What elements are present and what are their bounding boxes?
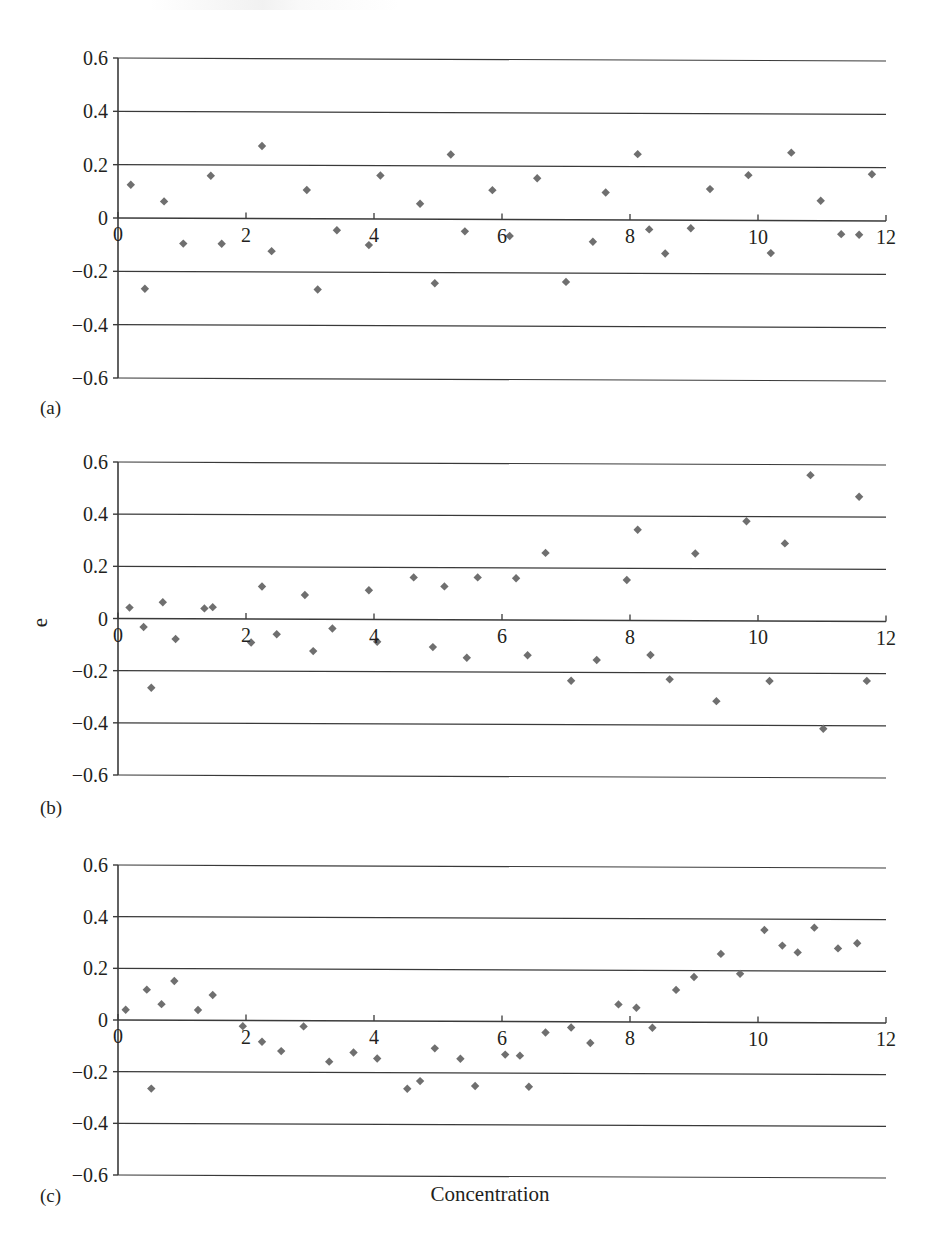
y-tick-label: 0 bbox=[98, 1010, 108, 1030]
x-tick-label: 8 bbox=[625, 1028, 635, 1048]
x-tick-label: 0 bbox=[113, 625, 123, 645]
x-tick-label: 0 bbox=[113, 224, 123, 244]
y-tick-label: 0.4 bbox=[83, 504, 108, 524]
x-axis-labels-a: 024681012 bbox=[118, 58, 886, 378]
y-tick-label: 0.6 bbox=[83, 855, 108, 875]
x-axis-labels-b: 024681012 bbox=[118, 462, 886, 775]
y-tick-label: 0.2 bbox=[83, 556, 108, 576]
y-axis-title: e bbox=[30, 618, 51, 627]
x-tick-label: 10 bbox=[748, 627, 768, 647]
x-tick-label: 4 bbox=[369, 626, 379, 646]
y-axis-labels-a: −0.6−0.4−0.200.20.40.6 bbox=[0, 58, 108, 378]
x-tick-label: 2 bbox=[241, 1027, 251, 1047]
x-tick-label: 8 bbox=[625, 226, 635, 246]
y-tick-label: −0.6 bbox=[72, 368, 108, 388]
y-tick-label: −0.4 bbox=[72, 1113, 108, 1133]
y-tick-label: −0.4 bbox=[72, 713, 108, 733]
y-tick-label: 0 bbox=[98, 609, 108, 629]
panel-c: −0.6−0.4−0.200.20.40.6 024681012 (c) Con… bbox=[0, 800, 932, 1258]
x-tick-label: 10 bbox=[748, 1029, 768, 1049]
x-axis-labels-c: 024681012 bbox=[118, 865, 886, 1175]
y-tick-label: 0.2 bbox=[83, 155, 108, 175]
y-tick-label: −0.4 bbox=[72, 315, 108, 335]
y-tick-label: −0.2 bbox=[72, 1062, 108, 1082]
x-tick-label: 2 bbox=[241, 225, 251, 245]
y-axis-labels-b: −0.6−0.4−0.200.20.40.6 bbox=[0, 462, 108, 775]
y-tick-label: −0.6 bbox=[72, 1165, 108, 1185]
y-tick-label: 0.4 bbox=[83, 907, 108, 927]
y-axis-labels-c: −0.6−0.4−0.200.20.40.6 bbox=[0, 865, 108, 1175]
x-tick-label: 12 bbox=[876, 227, 896, 247]
x-tick-label: 0 bbox=[113, 1026, 123, 1046]
x-tick-label: 10 bbox=[748, 227, 768, 247]
x-tick-label: 4 bbox=[369, 1027, 379, 1047]
figure-page: −0.6−0.4−0.200.20.40.6 024681012 (a) −0.… bbox=[0, 0, 932, 1258]
x-tick-label: 12 bbox=[876, 1029, 896, 1049]
panel-caption-c: (c) bbox=[40, 1186, 61, 1205]
y-tick-label: 0.4 bbox=[83, 101, 108, 121]
y-tick-label: 0 bbox=[98, 208, 108, 228]
y-tick-label: 0.2 bbox=[83, 958, 108, 978]
x-tick-label: 8 bbox=[625, 627, 635, 647]
x-axis-title: Concentration bbox=[431, 1184, 550, 1205]
panel-a: −0.6−0.4−0.200.20.40.6 024681012 (a) bbox=[0, 0, 932, 430]
y-tick-label: −0.6 bbox=[72, 765, 108, 785]
x-tick-label: 2 bbox=[241, 625, 251, 645]
panel-b: −0.6−0.4−0.200.20.40.6 024681012 e (b) bbox=[0, 400, 932, 830]
x-tick-label: 4 bbox=[369, 225, 379, 245]
x-tick-label: 6 bbox=[497, 1028, 507, 1048]
y-tick-label: −0.2 bbox=[72, 661, 108, 681]
x-tick-label: 12 bbox=[876, 628, 896, 648]
x-tick-label: 6 bbox=[497, 626, 507, 646]
y-tick-label: 0.6 bbox=[83, 48, 108, 68]
y-tick-label: −0.2 bbox=[72, 261, 108, 281]
y-tick-label: 0.6 bbox=[83, 452, 108, 472]
x-tick-label: 6 bbox=[497, 226, 507, 246]
